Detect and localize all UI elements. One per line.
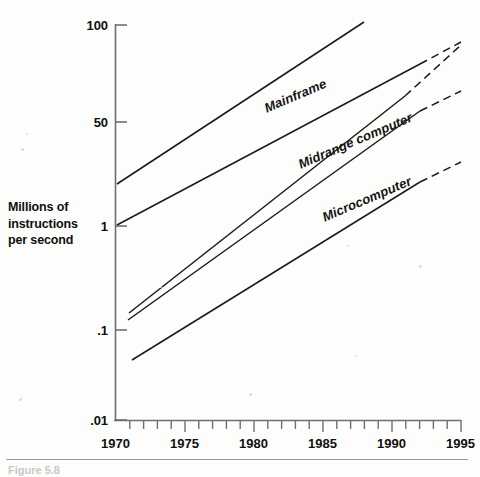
paper-speck <box>19 398 22 401</box>
series-line-midrange-projection <box>405 45 461 96</box>
x-tick-label-1970: 1970 <box>93 436 138 451</box>
x-tick-label-1985: 1985 <box>300 436 345 451</box>
paper-speck <box>419 265 422 268</box>
paper-speck <box>21 148 24 151</box>
y-axis-label-line-1: Millions of <box>8 199 92 216</box>
axes-group <box>114 24 461 421</box>
series-line-midrange-lower-projection <box>420 91 461 111</box>
paper-speck <box>160 286 162 288</box>
x-tick-label-1995: 1995 <box>438 436 480 451</box>
paper-speck <box>26 133 28 135</box>
y-tick-label-point01: .01 <box>66 413 108 428</box>
x-tick-label-1975: 1975 <box>162 436 207 451</box>
y-tick-label-1: 1 <box>66 219 108 234</box>
x-tick-label-1980: 1980 <box>231 436 276 451</box>
y-tick-label-100: 100 <box>66 18 108 33</box>
x-ticks-group <box>130 420 461 432</box>
series-line-upper-midrange-projection <box>420 42 461 64</box>
y-axis-label-line-3: per second <box>8 232 92 249</box>
x-tick-label-1990: 1990 <box>369 436 414 451</box>
y-tick-label-point1: .1 <box>66 323 108 338</box>
y-tick-label-50: 50 <box>66 115 108 130</box>
series-line-microcomputer-projection <box>420 162 461 182</box>
series-line-microcomputer <box>132 182 420 360</box>
paper-speck <box>347 245 349 247</box>
caption-divider <box>6 459 468 460</box>
data-series-group <box>117 22 461 360</box>
paper-speck <box>249 393 252 396</box>
paper-speck <box>355 355 357 357</box>
figure-caption: Figure 5.8 <box>8 464 60 476</box>
